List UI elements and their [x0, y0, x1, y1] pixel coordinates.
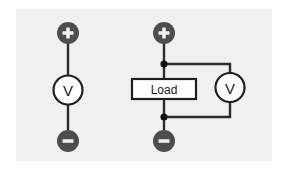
voltmeter-branch-lower-wire — [164, 102, 230, 117]
right-plus-terminal[interactable] — [153, 22, 175, 44]
minus-icon-bar — [63, 139, 74, 143]
load-block[interactable]: Load — [132, 79, 196, 99]
circuit-diagram-canvas: V Load — [0, 0, 288, 179]
right-voltmeter[interactable]: V — [216, 73, 245, 102]
plus-icon-vertical-bar — [162, 28, 166, 39]
right-circuit: Load V — [132, 22, 245, 152]
left-voltmeter[interactable]: V — [54, 76, 83, 105]
minus-icon-bar — [159, 139, 170, 143]
voltmeter-label: V — [63, 82, 73, 99]
left-minus-terminal[interactable] — [57, 130, 79, 152]
bottom-junction-dot — [160, 113, 167, 120]
right-minus-terminal[interactable] — [153, 130, 175, 152]
load-block-label: Load — [151, 83, 178, 97]
circuit-diagram-figure: V Load — [0, 0, 288, 179]
voltmeter-branch-upper-wire — [164, 64, 230, 73]
top-junction-dot — [160, 60, 167, 67]
left-circuit: V — [54, 22, 83, 152]
left-plus-terminal[interactable] — [57, 22, 79, 44]
plus-icon-vertical-bar — [66, 28, 70, 39]
voltmeter-label: V — [225, 80, 235, 97]
